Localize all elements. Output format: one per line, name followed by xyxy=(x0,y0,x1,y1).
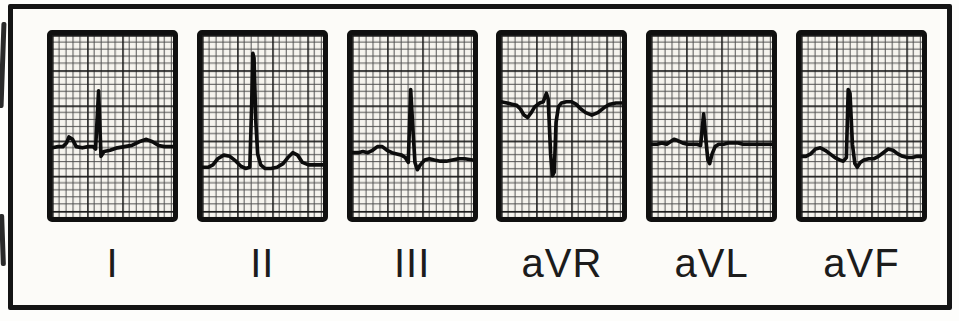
lead-panel-aVR: aVR xyxy=(496,30,627,280)
ecg-strip xyxy=(796,30,927,222)
ecg-strip xyxy=(347,30,478,222)
lead-panel-II: II xyxy=(197,30,328,280)
ecg-strip-svg xyxy=(501,35,622,217)
ecg-strip xyxy=(646,30,777,222)
ecg-strip-svg xyxy=(651,35,772,217)
lead-label-II: II xyxy=(250,246,274,280)
ecg-gridlines xyxy=(801,35,922,217)
figure-frame: I II III aVR xyxy=(8,4,952,310)
ecg-strip-svg xyxy=(352,35,473,217)
lead-label-aVF: aVF xyxy=(823,246,899,280)
lead-panel-aVL: aVL xyxy=(646,30,777,280)
lead-label-I: I xyxy=(106,246,118,280)
ecg-gridlines xyxy=(52,35,173,217)
ecg-gridlines xyxy=(651,35,772,217)
ecg-strip xyxy=(47,30,178,222)
ecg-gridlines xyxy=(202,35,323,217)
lead-panel-I: I xyxy=(47,30,178,280)
lead-label-aVL: aVL xyxy=(675,246,749,280)
lead-label-aVR: aVR xyxy=(521,246,602,280)
ecg-strip xyxy=(197,30,328,222)
scan-artifact xyxy=(0,22,6,108)
ecg-strip-svg xyxy=(801,35,922,217)
lead-panel-III: III xyxy=(347,30,478,280)
panels-row: I II III aVR xyxy=(13,9,947,280)
ecg-gridlines xyxy=(501,35,622,217)
ecg-strip xyxy=(496,30,627,222)
ecg-strip-svg xyxy=(202,35,323,217)
lead-label-III: III xyxy=(394,246,430,280)
lead-panel-aVF: aVF xyxy=(796,30,927,280)
ecg-figure: I II III aVR xyxy=(0,0,959,321)
scan-artifact xyxy=(0,214,6,266)
ecg-strip-svg xyxy=(52,35,173,217)
